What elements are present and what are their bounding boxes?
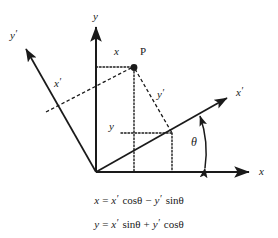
point-p-marker bbox=[131, 64, 138, 71]
formula-x: x=x′cosθ−y′sinθ bbox=[0, 194, 278, 206]
prime-mark-icon: ′ bbox=[159, 193, 162, 204]
theta-arc bbox=[200, 116, 206, 168]
prime-mark-icon: ′ bbox=[116, 193, 119, 204]
x-axis-label: x bbox=[259, 166, 264, 177]
formula-y-term2-var: y bbox=[153, 218, 158, 230]
y-axis-label: y bbox=[93, 11, 98, 22]
formula-y-term2-fn: cosθ bbox=[162, 218, 183, 230]
prime-mark-icon: ′ bbox=[158, 217, 161, 228]
x-prime-distance-dashed-line bbox=[46, 67, 133, 112]
point-p-label: P bbox=[140, 46, 146, 57]
y-coordinate-label: y bbox=[109, 121, 114, 132]
y-prime-distance-dashed-line bbox=[135, 69, 172, 133]
theta-label: θ bbox=[191, 136, 197, 148]
rotation-of-axes-figure: y x y′ x′ P x y x′ y′ θ x=x′cosθ−y′sinθ … bbox=[0, 0, 278, 238]
y-prime-coordinate-label: y′ bbox=[157, 88, 165, 100]
formula-y: y=x′sinθ+y′cosθ bbox=[0, 218, 278, 230]
prime-mark-icon: ′ bbox=[116, 217, 119, 228]
x-prime-coordinate-label: x′ bbox=[54, 77, 62, 89]
prime-mark-icon: ′ bbox=[59, 76, 62, 87]
x-prime-axis-label: x′ bbox=[236, 86, 244, 98]
y-prime-axis-label: y′ bbox=[10, 29, 18, 41]
prime-mark-icon: ′ bbox=[162, 87, 165, 98]
prime-mark-icon: ′ bbox=[241, 85, 244, 96]
x-prime-axis-line bbox=[96, 98, 227, 172]
formula-x-term2-fn: sinθ bbox=[164, 194, 184, 206]
formula-y-term1-fn: sinθ bbox=[121, 218, 141, 230]
formula-y-operator: + bbox=[141, 218, 153, 230]
formula-x-operator: − bbox=[142, 194, 154, 206]
formula-x-equals: = bbox=[99, 194, 111, 206]
prime-mark-icon: ′ bbox=[15, 28, 18, 39]
x-coordinate-label: x bbox=[114, 46, 119, 57]
formula-y-equals: = bbox=[99, 218, 111, 230]
y-prime-axis-line bbox=[26, 49, 96, 172]
formula-x-term1-fn: cosθ bbox=[121, 194, 142, 206]
